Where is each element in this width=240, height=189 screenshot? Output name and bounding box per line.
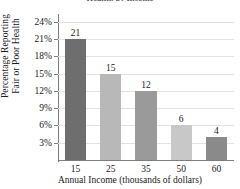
y-axis-tick-label: 18% (35, 51, 52, 61)
chart-title: Health, by Income (0, 0, 240, 1)
x-axis-tick-label: 25 (106, 164, 116, 174)
y-axis-tick-label: 3% (39, 138, 52, 148)
y-axis-tick-label: 15% (35, 69, 52, 79)
x-axis-tick-label: 35 (141, 164, 151, 174)
y-axis-title-line-2: Fair or Poor Health (11, 0, 22, 116)
y-axis-tick (54, 108, 58, 109)
y-axis-tick-label: 24% (35, 17, 52, 27)
y-axis-tick (54, 74, 58, 75)
bar[interactable]: 2115 (65, 39, 86, 160)
y-axis-tick (54, 91, 58, 92)
bar-value-label: 21 (71, 28, 81, 38)
y-axis-tick (54, 39, 58, 40)
bar-value-label: 15 (106, 63, 116, 73)
x-axis-title: Annual Income (thousands of dollars) (20, 175, 240, 185)
bar-value-label: 6 (179, 114, 184, 124)
bar[interactable]: 1525 (100, 74, 121, 160)
y-axis-title-line-1: Percentage Reporting (0, 0, 11, 116)
y-axis-tick-label: 9% (39, 103, 52, 113)
y-axis-title: Percentage Reporting Fair or Poor Health (0, 0, 24, 116)
x-axis-tick-label: 60 (212, 164, 222, 174)
bar[interactable]: 650 (171, 125, 192, 160)
x-axis-line (58, 160, 234, 161)
bar-value-label: 4 (214, 126, 219, 136)
bar-value-label: 12 (141, 80, 151, 90)
x-axis-tick-label: 15 (71, 164, 81, 174)
bar[interactable]: 1235 (135, 91, 156, 160)
y-axis-tick-label: 21% (35, 34, 52, 44)
gridline (58, 22, 234, 23)
y-axis-tick (54, 125, 58, 126)
y-axis-tick (54, 56, 58, 57)
plot-area: 3%6%9%12%15%18%21%24%211515251235650460 (58, 16, 234, 160)
y-axis-tick (54, 22, 58, 23)
y-axis-tick (54, 143, 58, 144)
x-axis-tick-label: 50 (176, 164, 186, 174)
y-axis-tick-label: 6% (39, 120, 52, 130)
bar-chart-figure: Health, by Income Percentage Reporting F… (0, 0, 240, 189)
bar[interactable]: 460 (206, 137, 227, 160)
y-axis-tick-label: 12% (35, 86, 52, 96)
